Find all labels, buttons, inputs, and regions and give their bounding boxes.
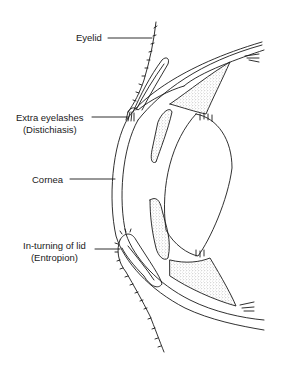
upper-eyelid: [128, 22, 184, 112]
ciliary-body-lower: [150, 198, 236, 306]
lens: [164, 113, 232, 257]
ciliary-body-upper: [151, 62, 230, 163]
eye-cross-section-illustration: [0, 0, 286, 374]
leader-lines: [70, 38, 152, 249]
